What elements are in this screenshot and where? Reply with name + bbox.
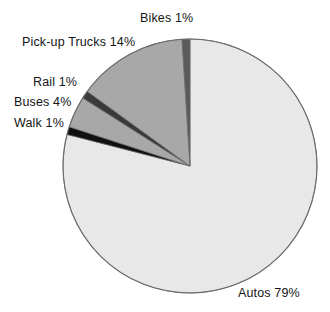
slice-label-walk: Walk 1% [14, 117, 64, 130]
slice-label-bikes: Bikes 1% [140, 12, 193, 25]
slice-label-buses: Buses 4% [14, 96, 71, 109]
slice-label-autos: Autos 79% [238, 287, 300, 300]
slice-label-pickup-trucks: Pick-up Trucks 14% [22, 36, 135, 49]
pie-slice-group [63, 39, 317, 293]
slice-label-rail: Rail 1% [33, 76, 77, 89]
pie-chart-figure: Bikes 1% Pick-up Trucks 14% Rail 1% Buse… [0, 0, 330, 312]
